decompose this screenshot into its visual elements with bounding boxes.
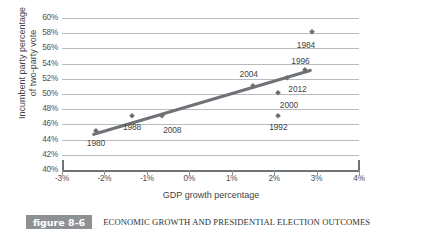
plot-area: 198019882008200419922000201219961984 bbox=[62, 18, 359, 170]
x-tick-label-0: 0% bbox=[174, 174, 204, 183]
x-tick-label-4: 4% bbox=[344, 174, 374, 183]
data-point-label-2012: 2012 bbox=[288, 84, 306, 94]
y-tick-label-42: 42% bbox=[24, 151, 58, 159]
figure-number-badge: figure 8-6 bbox=[26, 215, 92, 229]
x-tick-label-2: 2% bbox=[259, 174, 289, 183]
x-tick-label-neg3: -3% bbox=[47, 174, 77, 183]
x-tick-label-neg2: -2% bbox=[89, 174, 119, 183]
figure-container: 198019882008200419922000201219961984 40%… bbox=[0, 0, 427, 235]
data-point-label-1996: 1996 bbox=[291, 56, 309, 66]
y-axis-title: Incumbent party percentage of two-party … bbox=[17, 0, 39, 133]
y-tick-label-40: 40% bbox=[24, 166, 58, 174]
y-axis-title-line2: of two-party vote bbox=[28, 0, 39, 133]
data-point-label-1992: 1992 bbox=[269, 122, 287, 132]
y-tick-label-44: 44% bbox=[24, 136, 58, 144]
figure-caption-text: ECONOMIC GROWTH AND PRESIDENTIAL ELECTIO… bbox=[103, 215, 370, 229]
data-point-label-2004: 2004 bbox=[240, 69, 258, 79]
data-point-label-1988: 1988 bbox=[123, 122, 141, 132]
x-axis-line bbox=[62, 170, 360, 172]
x-axis-title: GDP growth percentage bbox=[62, 190, 360, 200]
data-point-label-1984: 1984 bbox=[297, 40, 315, 50]
x-tick-label-3: 3% bbox=[302, 174, 332, 183]
x-tick-label-1: 1% bbox=[217, 174, 247, 183]
x-tick-label-neg1: -1% bbox=[132, 174, 162, 183]
figure-caption-bar: figure 8-6 ECONOMIC GROWTH AND PRESIDENT… bbox=[26, 215, 370, 229]
data-point-label-2000: 2000 bbox=[280, 100, 298, 110]
y-axis-title-line1: Incumbent party percentage bbox=[17, 0, 28, 133]
data-point-label-2008: 2008 bbox=[163, 125, 181, 135]
data-point-label-1980: 1980 bbox=[87, 138, 105, 148]
